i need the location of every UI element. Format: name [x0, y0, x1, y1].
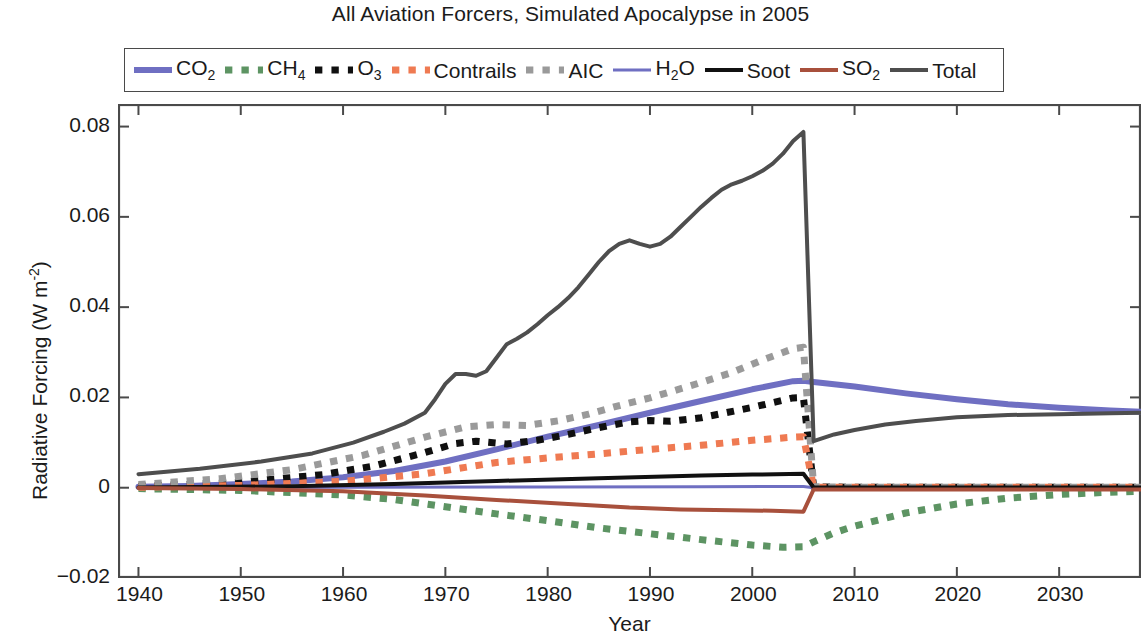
legend-swatch-co2-icon	[133, 60, 173, 80]
series-line-o3	[138, 397, 1141, 487]
legend-label-h2o: H2O	[655, 57, 694, 82]
series-line-ch4	[138, 489, 1141, 548]
legend-entry-o3[interactable]: O3	[314, 57, 381, 82]
chart-figure: All Aviation Forcers, Simulated Apocalyp…	[0, 0, 1141, 643]
y-axis-label-exponent: -2	[26, 268, 42, 280]
legend-label-so2: SO2	[842, 57, 880, 82]
x-axis-label: Year	[118, 612, 1141, 636]
x-tick-label: 2030	[1037, 582, 1084, 606]
legend-entry-total[interactable]: Total	[889, 60, 976, 81]
legend-swatch-contrails-icon	[391, 60, 431, 80]
legend-swatch-o3-icon	[314, 60, 354, 80]
x-tick-label: 1980	[525, 582, 572, 606]
legend-entry-contrails[interactable]: Contrails	[391, 60, 517, 81]
y-axis-label-main: Radiative Forcing (W m	[28, 281, 51, 500]
y-tick-label: 0	[98, 474, 110, 498]
y-axis-label-tail: )	[28, 261, 51, 268]
legend-label-total: Total	[932, 60, 976, 81]
legend-entry-ch4[interactable]: CH4	[224, 57, 305, 82]
y-tick-label: −0.02	[57, 564, 110, 588]
legend-swatch-ch4-icon	[224, 60, 264, 80]
x-tick-label: 1970	[423, 582, 470, 606]
legend-swatch-total-icon	[889, 60, 929, 80]
legend-entry-so2[interactable]: SO2	[799, 57, 880, 82]
x-tick-label: 2000	[730, 582, 777, 606]
plot-area	[118, 104, 1141, 578]
series-line-total	[138, 132, 1141, 474]
legend-entry-aic[interactable]: AIC	[525, 60, 603, 81]
chart-title: All Aviation Forcers, Simulated Apocalyp…	[0, 2, 1141, 26]
y-tick-label: 0.02	[69, 383, 110, 407]
series-layer	[138, 132, 1141, 547]
series-line-so2	[138, 488, 1141, 512]
legend-entry-soot[interactable]: Soot	[704, 60, 790, 81]
legend-label-o3: O3	[357, 57, 381, 82]
x-tick-label: 2010	[832, 582, 879, 606]
legend-swatch-aic-icon	[525, 60, 565, 80]
legend-swatch-h2o-icon	[612, 60, 652, 80]
x-tick-label: 1960	[321, 582, 368, 606]
x-tick-label: 1950	[218, 582, 265, 606]
legend-label-contrails: Contrails	[434, 60, 517, 81]
legend-swatch-so2-icon	[799, 60, 839, 80]
legend-label-co2: CO2	[176, 57, 215, 82]
legend-label-ch4: CH4	[267, 57, 305, 82]
legend-entry-h2o[interactable]: H2O	[612, 57, 694, 82]
chart-legend: CO2CH4O3ContrailsAICH2OSootSO2Total	[124, 48, 1004, 92]
y-tick-label: 0.04	[69, 293, 110, 317]
y-tick-label: 0.06	[69, 203, 110, 227]
legend-label-aic: AIC	[568, 60, 603, 81]
y-tick-label: 0.08	[69, 113, 110, 137]
x-tick-label: 1990	[628, 582, 675, 606]
legend-label-soot: Soot	[747, 60, 790, 81]
legend-swatch-soot-icon	[704, 60, 744, 80]
x-tick-label: 1940	[116, 582, 163, 606]
x-tick-label: 2020	[935, 582, 982, 606]
plot-svg	[118, 104, 1141, 578]
y-axis-label: Radiative Forcing (W m-2)	[26, 261, 52, 500]
legend-entry-co2[interactable]: CO2	[133, 57, 215, 82]
